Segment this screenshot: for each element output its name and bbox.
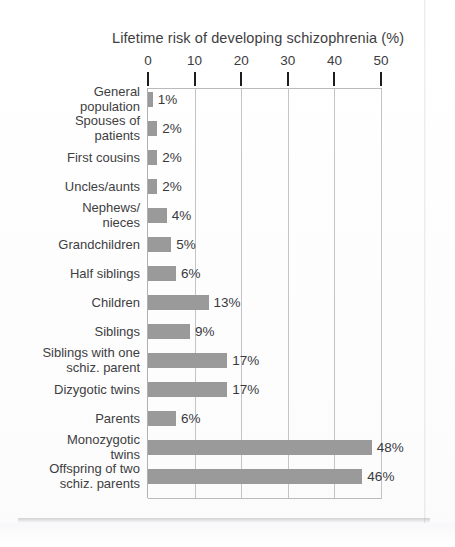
bar[interactable] xyxy=(148,469,362,484)
bar-value-label: 48% xyxy=(377,440,404,455)
category-label: Spouses ofpatients xyxy=(0,114,140,143)
bar-row: Children13% xyxy=(0,295,455,310)
axis-top-line xyxy=(148,88,382,89)
bar[interactable] xyxy=(148,295,209,310)
x-tick-label-0: 0 xyxy=(144,53,152,68)
x-tick-mark-20 xyxy=(240,72,242,86)
bar-row: Grandchildren5% xyxy=(0,237,455,252)
category-label: Children xyxy=(0,296,140,311)
category-label: Generalpopulation xyxy=(0,85,140,114)
bar-value-label: 1% xyxy=(158,92,178,107)
category-label: Parents xyxy=(0,412,140,427)
chart-title: Lifetime risk of developing schizophreni… xyxy=(112,30,432,46)
bar-row: Parents6% xyxy=(0,411,455,426)
bar[interactable] xyxy=(148,266,176,281)
category-label: Dizygotic twins xyxy=(0,383,140,398)
bar[interactable] xyxy=(148,121,157,136)
bar-row: Uncles/aunts2% xyxy=(0,179,455,194)
bar-row: Spouses ofpatients2% xyxy=(0,121,455,136)
bar-row: Generalpopulation1% xyxy=(0,92,455,107)
bar-row: Monozygotictwins48% xyxy=(0,440,455,455)
x-tick-mark-40 xyxy=(333,72,335,86)
bar-row: Dizygotic twins17% xyxy=(0,382,455,397)
bar[interactable] xyxy=(148,237,171,252)
bar[interactable] xyxy=(148,440,372,455)
bar-row: Half siblings6% xyxy=(0,266,455,281)
category-label: Offspring of twoschiz. parents xyxy=(0,462,140,491)
bar[interactable] xyxy=(148,92,153,107)
x-tick-label-40: 40 xyxy=(327,53,342,68)
bar-chart: Lifetime risk of developing schizophreni… xyxy=(0,0,455,547)
bar-value-label: 13% xyxy=(214,295,241,310)
x-tick-mark-10 xyxy=(194,72,196,86)
category-label: Monozygotictwins xyxy=(0,433,140,462)
x-tick-label-10: 10 xyxy=(187,53,202,68)
bar[interactable] xyxy=(148,353,227,368)
category-label: Siblings xyxy=(0,325,140,340)
x-tick-label-20: 20 xyxy=(234,53,249,68)
bar-value-label: 6% xyxy=(181,266,201,281)
bar-value-label: 2% xyxy=(162,121,182,136)
x-tick-label-30: 30 xyxy=(280,53,295,68)
bar[interactable] xyxy=(148,179,157,194)
bar-value-label: 17% xyxy=(232,382,259,397)
bar-value-label: 17% xyxy=(232,353,259,368)
bar[interactable] xyxy=(148,382,227,397)
bar-value-label: 4% xyxy=(172,208,192,223)
bar-row: First cousins2% xyxy=(0,150,455,165)
bar-value-label: 46% xyxy=(367,469,394,484)
category-label: Grandchildren xyxy=(0,238,140,253)
category-label: Siblings with oneschiz. parent xyxy=(0,346,140,375)
bar-row: Offspring of twoschiz. parents46% xyxy=(0,469,455,484)
axis-bottom-line xyxy=(148,498,382,499)
bar[interactable] xyxy=(148,208,167,223)
category-label: Uncles/aunts xyxy=(0,180,140,195)
bar-value-label: 9% xyxy=(195,324,215,339)
bar-row: Siblings with oneschiz. parent17% xyxy=(0,353,455,368)
category-label: Nephews/nieces xyxy=(0,201,140,230)
bar[interactable] xyxy=(148,150,157,165)
bar-row: Siblings9% xyxy=(0,324,455,339)
x-tick-mark-30 xyxy=(287,72,289,86)
bar-value-label: 6% xyxy=(181,411,201,426)
x-tick-label-50: 50 xyxy=(373,53,388,68)
x-tick-mark-50 xyxy=(380,72,382,86)
bar-value-label: 2% xyxy=(162,150,182,165)
category-label: Half siblings xyxy=(0,267,140,282)
bar-value-label: 2% xyxy=(162,179,182,194)
x-tick-mark-0 xyxy=(147,72,149,86)
bar-value-label: 5% xyxy=(176,237,196,252)
bar[interactable] xyxy=(148,324,190,339)
category-label: First cousins xyxy=(0,151,140,166)
bar-row: Nephews/nieces4% xyxy=(0,208,455,223)
bar[interactable] xyxy=(148,411,176,426)
